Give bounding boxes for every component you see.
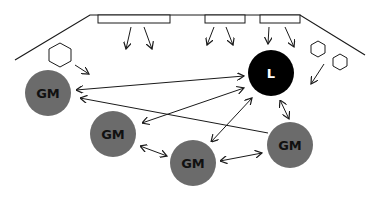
receptor-arrow [126,27,131,49]
interaction-arrow [211,98,252,142]
gm-node-label: GM [36,86,60,101]
leader-node-label: L [267,66,275,81]
hexagon-molecule-icon [311,41,325,57]
interaction-arrow [140,146,167,156]
receptor-arrow [226,27,233,45]
hexagon-molecule-icon [49,43,71,67]
signal-arrow [311,64,324,84]
gm-node-2: GM [90,111,136,157]
receptor-rect-2 [205,15,245,23]
gm-node-3: GM [170,140,216,186]
signal-arrow [75,65,89,74]
receptor-arrow [144,27,152,49]
receptor-arrow [268,27,269,44]
diagram-canvas: GM GM GM GM L [0,0,376,202]
gm-node-label: GM [181,156,205,171]
receptor-arrow [285,27,294,47]
gm-node-label: GM [278,138,302,153]
leader-node: L [248,50,294,96]
interaction-arrow [76,76,244,90]
interaction-arrow [280,100,289,119]
receptor-rect-3 [260,15,300,23]
interaction-arrow [142,88,244,123]
gm-node-label: GM [101,127,125,142]
receptor-arrow [207,27,214,45]
receptor-rect-1 [98,15,170,23]
gm-node-1: GM [25,70,71,116]
hexagon-molecule-icon [333,54,347,70]
interaction-arrow [220,153,262,161]
gm-node-4: GM [267,122,313,168]
